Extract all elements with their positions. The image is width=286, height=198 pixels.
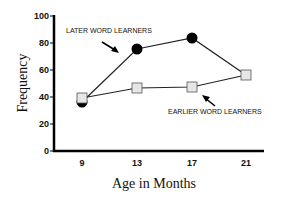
y-tick-40: 40 [39, 92, 49, 102]
x-tick-13: 13 [132, 158, 142, 168]
x-ticks: 9 13 17 21 [79, 158, 251, 168]
y-tick-60: 60 [39, 65, 49, 75]
y-tick-100: 100 [34, 11, 49, 21]
y-tick-0: 0 [44, 146, 49, 156]
earlier-learners-label: EARLIER WORD LEARNERS [168, 108, 262, 115]
y-tick-20: 20 [39, 119, 49, 129]
later-learners-arrowhead [111, 46, 119, 53]
later-learners-line [82, 38, 246, 102]
y-tick-80: 80 [39, 38, 49, 48]
later-learners-label: LATER WORD LEARNERS [66, 27, 152, 34]
x-tick-17: 17 [187, 158, 197, 168]
y-axis-label: Frequency [15, 53, 30, 112]
earlier-learners-markers [77, 70, 251, 103]
y-ticks: 100 80 60 40 20 0 [34, 11, 54, 156]
x-axis-label: Age in Months [112, 176, 196, 191]
x-tick-21: 21 [241, 158, 251, 168]
line-chart: 100 80 60 40 20 0 9 13 17 21 Age in Mont… [0, 0, 286, 198]
x-tick-9: 9 [79, 158, 84, 168]
